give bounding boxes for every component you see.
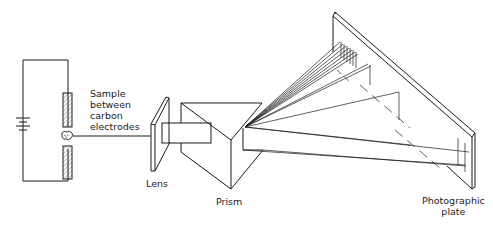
prism (181, 103, 263, 189)
photographic-plate-label: Photographic plate (422, 195, 485, 217)
prism-label: Prism (216, 196, 242, 207)
spectrograph-diagram: Sample between carbon electrodes Lens Pr… (0, 0, 493, 230)
sample-icon (62, 131, 73, 140)
lens (151, 97, 170, 171)
carbon-electrodes (63, 93, 72, 179)
photographic-plate (333, 12, 475, 189)
diagram-drawing (0, 0, 493, 230)
sample-label: Sample between carbon electrodes (90, 88, 140, 132)
circuit (16, 60, 68, 181)
light-rays (243, 42, 469, 172)
lens-label: Lens (146, 178, 168, 189)
